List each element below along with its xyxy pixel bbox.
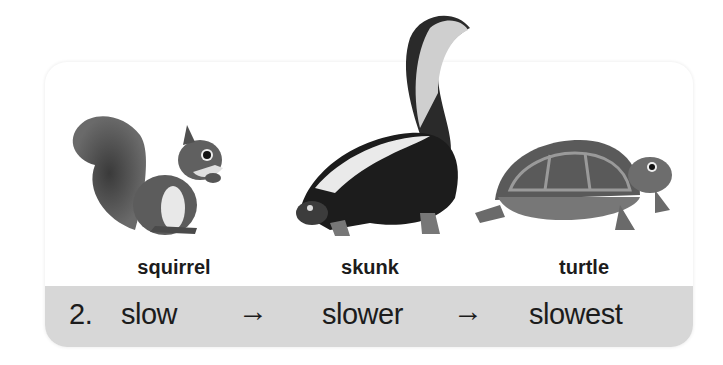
word-superlative: slowest (529, 298, 622, 331)
animal-label-skunk: skunk (341, 256, 399, 279)
arrow-right-icon: → (453, 294, 483, 328)
animal-label-squirrel: squirrel (137, 256, 210, 279)
animal-label-turtle: turtle (559, 256, 609, 279)
word-comparative: slower (322, 298, 403, 331)
exercise-number: 2. (69, 298, 92, 331)
arrow-right-icon: → (238, 294, 268, 328)
comparison-strip: 2. slow → slower → slowest (45, 286, 693, 347)
skunk-icon (290, 8, 480, 238)
squirrel-icon (65, 110, 235, 245)
word-positive: slow (121, 298, 177, 331)
turtle-icon (470, 135, 680, 235)
